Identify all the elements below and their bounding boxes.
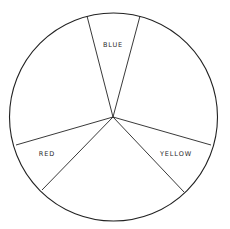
divider-yellow-upper xyxy=(113,117,211,145)
label-blue: BLUE xyxy=(103,41,123,49)
divider-blue-right xyxy=(113,16,140,117)
divider-blue-left xyxy=(87,16,113,117)
label-yellow: YELLOW xyxy=(159,150,192,158)
divider-red-upper xyxy=(16,117,113,145)
color-wheel-diagram: BLUE RED YELLOW xyxy=(0,0,230,229)
label-red: RED xyxy=(39,150,55,158)
